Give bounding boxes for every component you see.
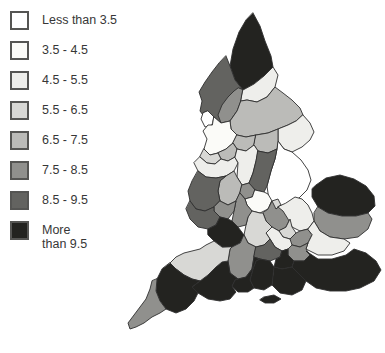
legend-label: 7.5 - 8.5 bbox=[42, 161, 88, 177]
region-isle-of-wight bbox=[260, 295, 281, 303]
legend-label: More than 9.5 bbox=[42, 221, 87, 251]
legend-label: 5.5 - 6.5 bbox=[42, 101, 88, 117]
legend-row-5: 7.5 - 8.5 bbox=[10, 161, 117, 180]
legend-swatch bbox=[10, 161, 29, 180]
legend-swatch bbox=[10, 131, 29, 150]
legend-swatch bbox=[10, 11, 29, 30]
legend-swatch bbox=[10, 71, 29, 90]
legend-swatch bbox=[10, 191, 29, 210]
legend-label: 4.5 - 5.5 bbox=[42, 71, 88, 87]
choropleth-figure: Less than 3.53.5 - 4.54.5 - 5.55.5 - 6.5… bbox=[0, 0, 385, 353]
legend-label: 3.5 - 4.5 bbox=[42, 41, 88, 57]
legend-row-7: More than 9.5 bbox=[10, 221, 117, 240]
legend-row-4: 6.5 - 7.5 bbox=[10, 131, 117, 150]
legend: Less than 3.53.5 - 4.54.5 - 5.55.5 - 6.5… bbox=[10, 11, 117, 251]
legend-swatch bbox=[10, 41, 29, 60]
legend-label: Less than 3.5 bbox=[42, 11, 117, 27]
legend-row-2: 4.5 - 5.5 bbox=[10, 71, 117, 90]
legend-label: 6.5 - 7.5 bbox=[42, 131, 88, 147]
legend-row-0: Less than 3.5 bbox=[10, 11, 117, 30]
legend-row-1: 3.5 - 4.5 bbox=[10, 41, 117, 60]
legend-swatch bbox=[10, 101, 29, 120]
legend-row-3: 5.5 - 6.5 bbox=[10, 101, 117, 120]
legend-row-6: 8.5 - 9.5 bbox=[10, 191, 117, 210]
legend-label: 8.5 - 9.5 bbox=[42, 191, 88, 207]
legend-swatch bbox=[10, 221, 29, 240]
